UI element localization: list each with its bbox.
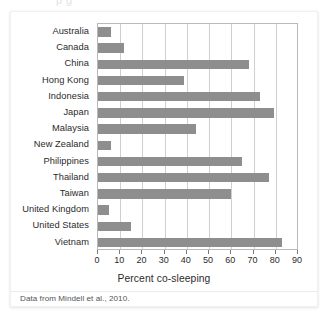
x-axis-tick (253, 250, 254, 254)
x-axis-tick-label: 10 (114, 255, 124, 265)
y-axis-label: United Kingdom (11, 201, 93, 217)
x-axis-tick-label: 30 (159, 255, 169, 265)
y-axis-label: Indonesia (11, 88, 93, 104)
bar-row (98, 56, 297, 72)
source-divider (11, 291, 317, 292)
x-axis-tick (297, 250, 298, 254)
bar (98, 189, 231, 198)
bar-row (98, 170, 297, 186)
bar (98, 205, 109, 214)
y-axis-label: Canada (11, 39, 93, 55)
y-axis-label: Taiwan (11, 185, 93, 201)
x-axis-tick (97, 250, 98, 254)
x-axis-tick-label: 70 (248, 255, 258, 265)
bar (98, 238, 282, 247)
x-axis-tick (275, 250, 276, 254)
x-axis-tick-label: 20 (136, 255, 146, 265)
bar-row (98, 73, 297, 89)
bar-row (98, 186, 297, 202)
y-axis-label: Australia (11, 23, 93, 39)
y-axis-label: Thailand (11, 169, 93, 185)
figure-card: AustraliaCanadaChinaHong KongIndonesiaJa… (10, 11, 318, 307)
x-axis-tick (141, 250, 142, 254)
source-note: Data from Mindell et al., 2010. (20, 294, 130, 303)
bar (98, 141, 111, 150)
x-axis-tick-label: 0 (94, 255, 99, 265)
bar (98, 27, 111, 36)
y-axis-label: New Zealand (11, 136, 93, 152)
x-axis-tick (208, 250, 209, 254)
x-axis-tick-label: 50 (203, 255, 213, 265)
y-axis-label: Japan (11, 104, 93, 120)
y-axis-label: Philippines (11, 153, 93, 169)
bar-row (98, 105, 297, 121)
bar (98, 60, 249, 69)
bar-row (98, 218, 297, 234)
x-axis-ticks: 0102030405060708090 (97, 250, 298, 256)
bar (98, 76, 184, 85)
y-axis-label: United States (11, 217, 93, 233)
bar (98, 92, 260, 101)
bar (98, 108, 274, 117)
bar-row (98, 154, 297, 170)
x-axis-tick (164, 250, 165, 254)
bar (98, 157, 242, 166)
x-axis-tick-label: 80 (270, 255, 280, 265)
bar-row (98, 121, 297, 137)
y-axis-label: Malaysia (11, 120, 93, 136)
x-axis-tick-label: 60 (225, 255, 235, 265)
x-axis-tick-label: 40 (181, 255, 191, 265)
cropped-text-fragment: p g (56, 0, 73, 6)
bar-row (98, 24, 297, 40)
bar-row (98, 40, 297, 56)
y-axis-label: Hong Kong (11, 72, 93, 88)
plot-area (97, 23, 298, 250)
x-axis-tick (119, 250, 120, 254)
figure-page: p g AustraliaCanadaChinaHong KongIndones… (0, 0, 329, 323)
bar (98, 124, 196, 133)
x-axis-title: Percent co-sleeping (11, 273, 317, 284)
y-axis-label: China (11, 55, 93, 71)
x-axis-tick (186, 250, 187, 254)
y-axis-category-labels: AustraliaCanadaChinaHong KongIndonesiaJa… (11, 23, 93, 250)
bar-row (98, 202, 297, 218)
x-axis-tick (230, 250, 231, 254)
bar-row (98, 235, 297, 251)
bar (98, 173, 269, 182)
bar-row (98, 89, 297, 105)
bar-row (98, 137, 297, 153)
bar-rows (98, 24, 297, 249)
bar (98, 43, 124, 52)
x-axis-tick-label: 90 (292, 255, 302, 265)
bar (98, 222, 131, 231)
y-axis-label: Vietnam (11, 234, 93, 250)
